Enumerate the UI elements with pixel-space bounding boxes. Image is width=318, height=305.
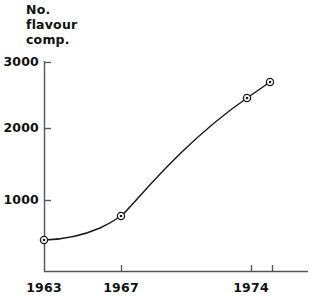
- data-point-1975: [266, 78, 273, 85]
- y-tick-label-1000: 1000: [0, 192, 39, 207]
- y-tick-label-2000: 2000: [0, 120, 39, 135]
- y-axis-title-line-2: flavour: [26, 17, 77, 32]
- marker-dot-1974: [246, 97, 249, 100]
- marker-dot-1975: [269, 81, 272, 84]
- y-tick-label-3000: 3000: [0, 54, 39, 69]
- data-point-1963: [40, 236, 47, 243]
- y-axis-title-line-1: No.: [26, 2, 77, 17]
- data-point-1967: [117, 212, 124, 219]
- data-point-1974: [243, 94, 250, 101]
- chart-container: No. flavour comp. 3000 2000 1000 1963 19…: [0, 0, 318, 305]
- data-line-flavour-comp: [44, 82, 270, 240]
- marker-dot-1967: [120, 215, 123, 218]
- marker-dot-1963: [43, 239, 46, 242]
- y-axis-title: No. flavour comp.: [26, 2, 77, 47]
- x-tick-label-1963: 1963: [17, 280, 71, 295]
- y-axis-title-line-3: comp.: [26, 32, 77, 47]
- x-tick-label-1967: 1967: [94, 280, 148, 295]
- x-tick-label-1974: 1974: [224, 280, 278, 295]
